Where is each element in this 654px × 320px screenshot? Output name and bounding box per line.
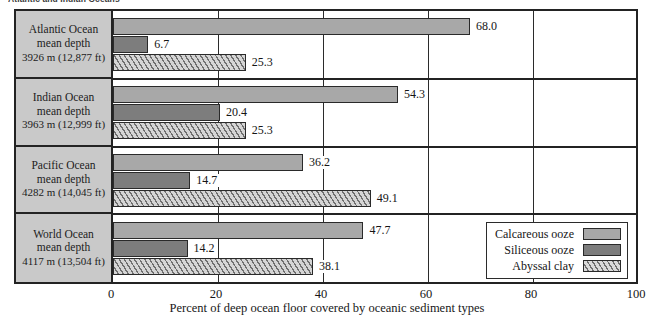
sediment-bar-chart-figure: Atlantic and Indian Oceans Atlantic Ocea… — [0, 0, 654, 320]
x-tick-label-20: 20 — [210, 287, 223, 302]
category-label-line-2: mean depth — [37, 241, 90, 255]
bar-value-label: 54.3 — [402, 88, 427, 101]
bar-atlantic-ocean-abys — [113, 54, 246, 71]
x-tick-label-100: 100 — [627, 287, 646, 302]
x-tick-label-80: 80 — [525, 287, 538, 302]
bar-value-label: 14.2 — [192, 242, 217, 255]
bar-world-ocean-calc — [113, 222, 363, 239]
bar-value-label: 36.2 — [307, 156, 332, 169]
bar-value-label: 14.7 — [194, 174, 219, 187]
category-label-pacific-ocean: Pacific Oceanmean depth4282 m (14,045 ft… — [16, 147, 113, 215]
row-separator — [113, 213, 636, 215]
figure-top-caption: Atlantic and Indian Oceans — [8, 0, 120, 3]
x-tick-label-0: 0 — [108, 287, 114, 302]
legend-swatch-abys — [583, 260, 621, 272]
category-label-line-3: 4117 m (13,504 ft) — [22, 255, 105, 269]
category-label-line-3: 4282 m (14,045 ft) — [22, 186, 105, 200]
category-label-line-3: 3963 m (12,999 ft) — [22, 118, 105, 132]
bar-atlantic-ocean-sili — [113, 36, 148, 53]
bar-value-label: 6.7 — [152, 38, 171, 51]
category-label-indian-ocean: Indian Oceanmean depth3963 m (12,999 ft) — [16, 79, 113, 147]
category-label-line-3: 3926 m (12,877 ft) — [22, 51, 105, 65]
bar-indian-ocean-sili — [113, 104, 220, 121]
category-label-column: Atlantic Oceanmean depth3926 m (12,877 f… — [16, 11, 113, 282]
row-separator — [113, 146, 636, 148]
legend-item-sili[interactable]: Siliceous ooze — [495, 242, 621, 258]
legend-item-label: Calcareous ooze — [495, 227, 574, 242]
bar-world-ocean-sili — [113, 240, 188, 257]
bar-pacific-ocean-sili — [113, 172, 190, 189]
category-label-line-2: mean depth — [37, 173, 90, 187]
legend-item-calc[interactable]: Calcareous ooze — [495, 226, 621, 242]
x-tick-label-40: 40 — [315, 287, 328, 302]
legend-item-abys[interactable]: Abyssal clay — [495, 258, 621, 274]
bar-value-label: 38.1 — [317, 260, 342, 273]
bar-value-label: 49.1 — [375, 192, 400, 205]
category-label-line-1: Pacific Ocean — [31, 159, 95, 173]
plot-area: 68.06.725.354.320.425.336.214.749.147.71… — [113, 11, 636, 282]
x-axis-title: Percent of deep ocean floor covered by o… — [0, 301, 654, 316]
category-label-line-2: mean depth — [37, 37, 90, 51]
chart-frame: Atlantic Oceanmean depth3926 m (12,877 f… — [14, 9, 638, 284]
bar-value-label: 47.7 — [367, 224, 392, 237]
legend-item-label: Siliceous ooze — [504, 243, 574, 258]
bar-value-label: 68.0 — [474, 20, 499, 33]
bar-indian-ocean-calc — [113, 86, 398, 103]
bar-indian-ocean-abys — [113, 122, 246, 139]
legend-item-label: Abyssal clay — [512, 259, 574, 274]
bar-pacific-ocean-calc — [113, 154, 303, 171]
row-separator — [113, 78, 636, 80]
bar-value-label: 25.3 — [250, 124, 275, 137]
category-label-world-ocean: World Oceanmean depth4117 m (13,504 ft) — [16, 214, 113, 282]
bar-value-label: 25.3 — [250, 56, 275, 69]
category-label-line-2: mean depth — [37, 105, 90, 119]
category-label-line-1: Indian Ocean — [33, 91, 95, 105]
bar-pacific-ocean-abys — [113, 190, 371, 207]
category-label-line-1: Atlantic Ocean — [29, 23, 98, 37]
category-label-line-1: World Ocean — [33, 228, 94, 242]
bar-value-label: 20.4 — [224, 106, 249, 119]
bar-world-ocean-abys — [113, 258, 313, 275]
legend-swatch-sili — [583, 244, 621, 256]
bar-atlantic-ocean-calc — [113, 18, 470, 35]
legend: Calcareous oozeSiliceous oozeAbyssal cla… — [486, 222, 628, 279]
category-label-atlantic-ocean: Atlantic Oceanmean depth3926 m (12,877 f… — [16, 11, 113, 79]
x-tick-label-60: 60 — [420, 287, 433, 302]
legend-swatch-calc — [583, 228, 621, 240]
